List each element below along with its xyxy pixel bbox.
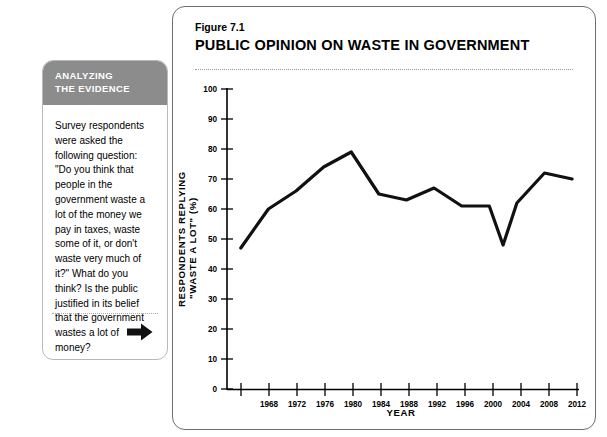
y-axis-tick-labels: 100 90 80 70 60 50 40 30 20 10 0 — [203, 85, 217, 394]
right-arrow-icon[interactable] — [127, 323, 153, 341]
y-tick-label: 70 — [208, 175, 218, 184]
x-tick-label: 1996 — [456, 400, 475, 409]
analyzing-evidence-callout: ANALYZING THE EVIDENCE Survey respondent… — [42, 60, 168, 360]
line-chart: RESPONDENTS REPLYING "WASTE A LOT" (%) Y… — [173, 77, 597, 429]
x-tick-label: 2008 — [540, 400, 559, 409]
x-tick-label: 1972 — [288, 400, 307, 409]
x-tick-label: 1988 — [400, 400, 419, 409]
callout-header-line2: THE EVIDENCE — [55, 83, 167, 96]
figure-title-divider — [195, 69, 573, 70]
y-axis-label-line2: "WASTE A LOT" (%) — [187, 197, 198, 299]
y-tick-label: 80 — [208, 145, 218, 154]
y-axis-label-line1: RESPONDENTS REPLYING — [176, 171, 187, 307]
x-tick-label: 1984 — [372, 400, 391, 409]
callout-header: ANALYZING THE EVIDENCE — [43, 61, 167, 105]
x-axis-tick-labels: 1968 1972 1976 1980 1984 1988 1992 1996 … — [260, 400, 587, 409]
callout-divider — [52, 313, 158, 314]
x-tick-label: 1976 — [316, 400, 335, 409]
callout-header-line1: ANALYZING — [55, 70, 167, 83]
data-series-line — [241, 152, 572, 248]
x-tick-label: 2012 — [568, 400, 587, 409]
x-tick-label: 1968 — [260, 400, 279, 409]
y-tick-label: 30 — [208, 295, 218, 304]
y-tick-label: 10 — [208, 355, 218, 364]
y-tick-label: 40 — [208, 265, 218, 274]
x-tick-label: 1980 — [344, 400, 363, 409]
x-tick-label: 2000 — [484, 400, 503, 409]
y-tick-label: 50 — [208, 235, 218, 244]
x-tick-label: 2004 — [512, 400, 531, 409]
figure-panel: Figure 7.1 PUBLIC OPINION ON WASTE IN GO… — [172, 6, 596, 430]
x-tick-label: 1992 — [428, 400, 447, 409]
figure-number: Figure 7.1 — [195, 21, 245, 33]
y-tick-label: 90 — [208, 115, 218, 124]
callout-body-text: Survey respondents were asked the follow… — [43, 105, 167, 356]
y-tick-label: 100 — [203, 85, 217, 94]
y-tick-label: 20 — [208, 325, 218, 334]
y-tick-label: 0 — [212, 385, 217, 394]
y-tick-label: 60 — [208, 205, 218, 214]
figure-title: PUBLIC OPINION ON WASTE IN GOVERNMENT — [195, 37, 529, 53]
